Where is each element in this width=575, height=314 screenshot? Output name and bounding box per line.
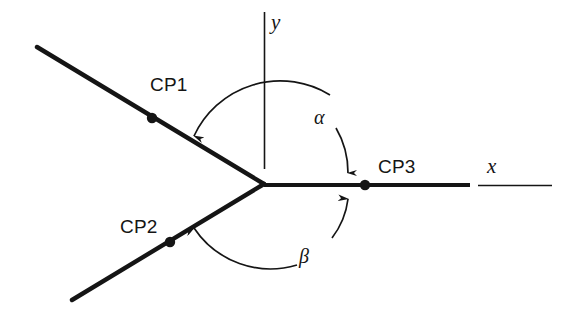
- y-axis-label: y: [271, 12, 280, 33]
- cp3-dot: [360, 180, 370, 190]
- alpha-arc-lower: [336, 128, 348, 173]
- cp2-label: CP2: [120, 217, 158, 236]
- alpha-label: α: [314, 107, 325, 127]
- beta-arc-upper: [332, 199, 348, 238]
- cp1-dot: [147, 113, 157, 123]
- cp2-dot: [165, 237, 175, 247]
- beta-arc-lower: [194, 228, 297, 269]
- x-axis-label: x: [487, 156, 496, 177]
- cp1-label: CP1: [150, 75, 188, 94]
- alpha-arc-upper: [194, 81, 330, 136]
- beta-label: β: [299, 246, 309, 266]
- figure-canvas: CP1 CP2 CP3 y x α β: [0, 0, 575, 314]
- cp3-label: CP3: [378, 157, 416, 176]
